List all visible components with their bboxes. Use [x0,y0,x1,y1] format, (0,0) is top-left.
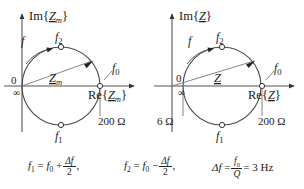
right-annotation-200ohm: 200 Ω [258,115,285,127]
left-f0-leader [104,71,112,80]
eq1-lhs-sub: 1 [31,165,35,174]
eq3-fraction: f0Q [231,156,242,180]
left-imag-axis-label: Im{Zm} [29,9,68,25]
left-marker-label-f0: f0 [112,61,120,77]
left-annotation-200ohm: 200 Ω [98,115,125,127]
left-marker-f1 [58,122,63,127]
eq1-fraction-numerator: Δf [63,156,75,166]
right-origin-label: 0 [176,72,182,84]
eq2-fraction-denominator: 2 [159,166,171,177]
right-phasor-line [172,61,254,86]
eq3-value: 3 Hz [252,161,273,173]
eq2-operator: − [152,159,158,171]
right-marker-f1 [219,122,224,127]
eq3-fraction-numerator: f0 [231,156,242,169]
left-frequency-direction-arrowhead [47,47,54,52]
equation-f1: f1 = f0 +Δf2, [28,156,79,178]
left-origin-label: 0 [11,74,17,86]
eq3-equals: = [224,161,230,173]
eq2-trailing-comma: , [173,159,176,171]
right-f0-leader [266,71,274,80]
left-infinity-label: ∞ [13,87,20,98]
eq2-equals: = [134,159,140,171]
eq3-lhs: Δf [212,161,222,173]
left-marker-label-f2: f2 [55,30,63,46]
eq2-fraction-numerator: Δf [159,156,171,166]
eq1-operator: + [56,159,62,171]
equation-delta-f: Δf =f0Q= 3 Hz [212,156,273,180]
right-imag-axis-label: Im{Z} [179,9,212,23]
right-frequency-direction-arrowhead [208,47,215,52]
right-marker-label-f: f [188,34,193,48]
eq1-trailing-comma: , [77,159,80,171]
left-marker-label-f: f [21,34,26,48]
left-phasor-arrowhead [84,61,93,69]
right-annotation-6ohm: 6 Ω [157,115,173,127]
equation-row: f1 = f0 +Δf2, f2 = f0 −Δf2, Δf =f0Q= 3 H… [0,150,304,189]
left-real-axis-label: Re{Zm} [88,88,127,104]
right-marker-label-f2: f2 [216,30,224,46]
right-frequency-direction-arc [187,49,211,64]
right-marker-label-f1: f1 [216,129,224,145]
eq3-fraction-denominator: Q [231,168,242,179]
right-real-axis-label: Re{Z} [248,88,281,102]
left-marker-label-f1: f1 [55,129,63,145]
left-phasor-label: Zm [49,71,62,87]
eq2-rhs-sub: 0 [146,165,150,174]
figure-root: Im{Zm} Re{Zm} 0 ∞ Zm f f2 f1 f0 200 Ω [0,0,304,189]
eq1-equals: = [38,159,44,171]
eq2-fraction: Δf2 [159,156,171,178]
eq3-equals-2: = [243,161,249,173]
right-marker-label-f0: f0 [274,61,282,77]
eq1-rhs-sub: 0 [50,165,54,174]
eq1-fraction: Δf2 [63,156,75,178]
eq1-fraction-denominator: 2 [63,166,75,177]
right-phasor-label: Z [214,71,222,85]
equation-f2: f2 = f0 −Δf2, [124,156,175,178]
left-frequency-direction-arc [26,49,50,64]
right-infinity-label: ∞ [178,87,185,98]
eq2-lhs-sub: 2 [127,165,131,174]
